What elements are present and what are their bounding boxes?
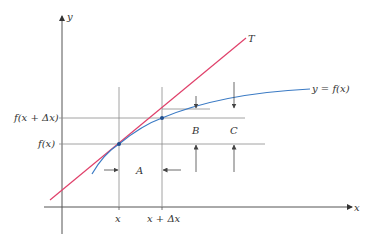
tangent-label: T bbox=[248, 33, 256, 44]
x-tick-label-x-dx: x + Δx bbox=[147, 213, 181, 224]
diagram-canvas: y x T y = f(x) f(x + Δx) f(x) x x + Δx A… bbox=[0, 0, 366, 243]
region-a-label: A bbox=[135, 165, 143, 176]
curve-label: y = f(x) bbox=[311, 83, 350, 94]
point-x bbox=[117, 142, 121, 146]
function-curve bbox=[92, 89, 310, 174]
y-tick-label-f-x-dx: f(x + Δx) bbox=[13, 112, 59, 123]
region-b-label: B bbox=[191, 125, 199, 136]
vertical-guides bbox=[119, 87, 162, 210]
tangent-line bbox=[50, 38, 246, 200]
x-tick-label-x: x bbox=[115, 213, 121, 224]
point-x-plus-dx bbox=[160, 116, 164, 120]
y-tick-label-f-x: f(x) bbox=[37, 138, 55, 149]
region-c-label: C bbox=[230, 125, 238, 136]
x-axis-label: x bbox=[354, 202, 360, 213]
y-axis-label: y bbox=[66, 11, 73, 22]
